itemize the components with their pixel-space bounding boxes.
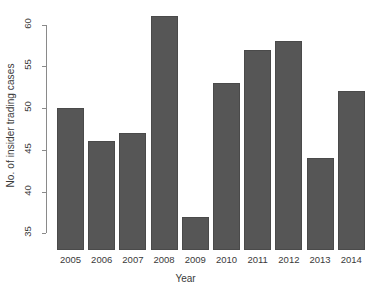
y-axis-tick-label: 40 bbox=[22, 179, 33, 201]
y-axis-tick-label: 45 bbox=[22, 137, 33, 159]
bar-2008 bbox=[151, 16, 178, 250]
x-axis-tick-label: 2014 bbox=[336, 254, 366, 265]
x-axis-tick-label: 2013 bbox=[305, 254, 335, 265]
x-axis-tick-label: 2006 bbox=[87, 254, 117, 265]
x-axis-tick-label: 2011 bbox=[243, 254, 273, 265]
y-axis-line bbox=[46, 25, 47, 234]
x-axis-tick-label: 2008 bbox=[149, 254, 179, 265]
y-axis-tick bbox=[42, 233, 46, 234]
y-axis-tick-label: 60 bbox=[22, 12, 33, 34]
y-axis-tick bbox=[42, 25, 46, 26]
bar-2014 bbox=[338, 91, 365, 250]
bar-2010 bbox=[213, 83, 240, 250]
bar-2005 bbox=[57, 108, 84, 250]
y-axis-tick-label: 50 bbox=[22, 96, 33, 118]
plot-area: 3540455055602005200620072008200920102011… bbox=[0, 0, 371, 296]
x-axis-tick-label: 2012 bbox=[274, 254, 304, 265]
x-axis-tick-label: 2010 bbox=[212, 254, 242, 265]
x-axis-tick-label: 2005 bbox=[56, 254, 86, 265]
y-axis-tick-label: 35 bbox=[22, 221, 33, 243]
x-axis-title: Year bbox=[0, 273, 371, 284]
bar-2009 bbox=[182, 217, 209, 250]
bar-chart: No. of insider trading cases 35404550556… bbox=[0, 0, 371, 296]
bar-2006 bbox=[88, 141, 115, 250]
y-axis-tick bbox=[42, 108, 46, 109]
bar-2012 bbox=[275, 41, 302, 250]
x-axis-tick-label: 2009 bbox=[180, 254, 210, 265]
bar-2013 bbox=[307, 158, 334, 250]
x-axis-tick-label: 2007 bbox=[118, 254, 148, 265]
bar-2011 bbox=[244, 50, 271, 250]
bar-2007 bbox=[119, 133, 146, 250]
y-axis-tick bbox=[42, 66, 46, 67]
y-axis-tick-label: 55 bbox=[22, 54, 33, 76]
y-axis-tick bbox=[42, 192, 46, 193]
y-axis-tick bbox=[42, 150, 46, 151]
